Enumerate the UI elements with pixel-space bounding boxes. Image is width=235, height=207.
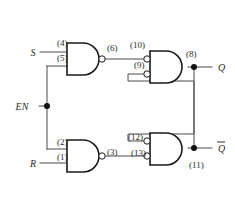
output-label-qbar: Q	[218, 143, 226, 154]
pin-label-2: (2)	[57, 137, 68, 147]
pin-label-11: (11)	[189, 160, 204, 170]
g3-body	[150, 51, 182, 83]
circuit-canvas: (4) (5) (6) (10) (9) (8) (2) (1) (3) (12…	[0, 0, 235, 207]
pin-label-4: (4)	[57, 38, 68, 48]
input-label-en: EN	[15, 101, 30, 112]
g1-output-bubble	[99, 56, 105, 62]
pin-label-10: (10)	[130, 40, 145, 50]
pin-label-8: (8)	[186, 49, 197, 59]
pin-label-1: (1)	[57, 152, 68, 162]
pin-label-3: (3)	[107, 147, 118, 157]
pin-label-5: (5)	[57, 53, 68, 63]
qbar-junction-dot	[191, 145, 197, 151]
gate-g1-nand-top-left[interactable]	[67, 43, 105, 75]
logic-circuit-diagram: (4) (5) (6) (10) (9) (8) (2) (1) (3) (12…	[0, 0, 235, 207]
pin-label-6: (6)	[107, 43, 118, 53]
g3-input-bubble-9	[144, 71, 150, 77]
input-label-r: R	[29, 158, 36, 169]
pin-label-12: (12)	[128, 132, 143, 142]
g4-input-bubble-12	[144, 138, 150, 144]
g3-input-bubble-10	[144, 56, 150, 62]
g2-body	[67, 140, 99, 172]
g2-output-bubble	[99, 153, 105, 159]
pin-label-13: (13)	[131, 148, 146, 158]
gate-g3-nand-top-right[interactable]	[144, 51, 182, 83]
g1-body	[67, 43, 99, 75]
en-junction-dot	[44, 103, 50, 109]
output-label-q: Q	[218, 62, 226, 73]
q-junction-dot	[191, 64, 197, 70]
gate-g4-nand-bottom-right[interactable]	[144, 133, 182, 165]
pin-label-9: (9)	[134, 60, 145, 70]
input-label-s: S	[31, 47, 36, 58]
g4-body	[150, 133, 182, 165]
gate-g2-nand-bottom-left[interactable]	[67, 140, 105, 172]
